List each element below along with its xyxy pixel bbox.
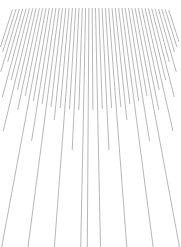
perspective-ray (33, 8, 49, 101)
perspective-ray (3, 9, 16, 52)
perspective-ray (54, 8, 72, 247)
perspective-ray (0, 10, 12, 47)
perspective-ray (102, 8, 109, 150)
perspective-ray (162, 9, 175, 52)
perspective-ray (72, 8, 79, 150)
radial-line-figure (0, 0, 181, 247)
perspective-ray (122, 8, 153, 247)
perspective-ray (148, 8, 165, 80)
perspective-ray (60, 8, 69, 108)
figure-canvas (0, 0, 181, 247)
perspective-ray (18, 8, 40, 110)
perspective-ray (81, 8, 86, 247)
perspective-ray (125, 8, 138, 101)
perspective-ray (1, 9, 20, 72)
perspective-ray (3, 8, 33, 131)
perspective-ray (112, 8, 121, 107)
perspective-ray (25, 8, 43, 96)
perspective-ray (79, 8, 82, 110)
perspective-ray (28, 8, 59, 247)
perspective-ray (99, 8, 102, 109)
perspective-ray (42, 8, 56, 104)
perspective-ray (109, 8, 127, 247)
perspective-ray (142, 8, 159, 90)
perspective-ray (2, 9, 26, 98)
perspective-ray (135, 8, 179, 247)
perspective-ray (145, 8, 173, 131)
perspective-ray (2, 8, 46, 247)
perspective-ray (92, 8, 93, 110)
perspective-ray (87, 8, 89, 247)
